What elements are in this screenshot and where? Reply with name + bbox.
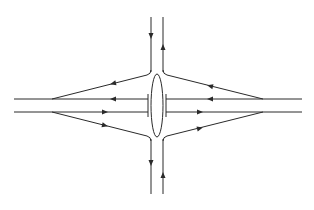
central-island bbox=[151, 74, 163, 137]
arrow-up-icon bbox=[161, 44, 166, 50]
arrow-right-icon bbox=[196, 125, 203, 131]
vertical-road bbox=[147, 17, 167, 194]
arrow-right-icon bbox=[197, 110, 203, 115]
top-left-join bbox=[147, 70, 151, 75]
arrow-right-icon bbox=[102, 110, 108, 115]
arrow-left-icon bbox=[206, 83, 213, 89]
bottom-right-join bbox=[163, 136, 167, 141]
lower-left-ramp bbox=[52, 112, 147, 136]
arrow-left-icon bbox=[110, 97, 116, 102]
arrow-down-icon bbox=[149, 33, 154, 39]
upper-left-ramp bbox=[52, 75, 147, 99]
interchange-diagram bbox=[0, 0, 314, 210]
arrow-left-icon bbox=[207, 97, 213, 102]
arrow-down-icon bbox=[149, 160, 154, 166]
arrow-left-icon bbox=[109, 80, 116, 86]
lower-right-ramp bbox=[167, 112, 263, 136]
arrow-up-icon bbox=[161, 172, 166, 178]
top-right-join bbox=[163, 70, 167, 75]
bottom-left-join bbox=[147, 136, 151, 141]
direction-arrows bbox=[101, 33, 213, 178]
ramps bbox=[52, 75, 263, 136]
upper-right-ramp bbox=[167, 75, 263, 99]
